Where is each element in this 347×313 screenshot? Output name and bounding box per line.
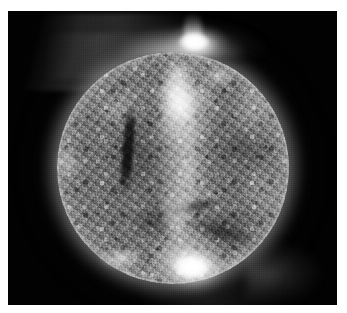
solar-image-plate [8,11,337,305]
central-bright-knot [158,73,198,131]
southwest-bright-point [100,247,142,269]
south-active-region-core [174,256,208,278]
west-limb-bright-point [56,147,82,177]
image-canvas [0,0,347,313]
north-polar-jet [184,13,202,47]
northeast-bright-point [204,67,234,87]
